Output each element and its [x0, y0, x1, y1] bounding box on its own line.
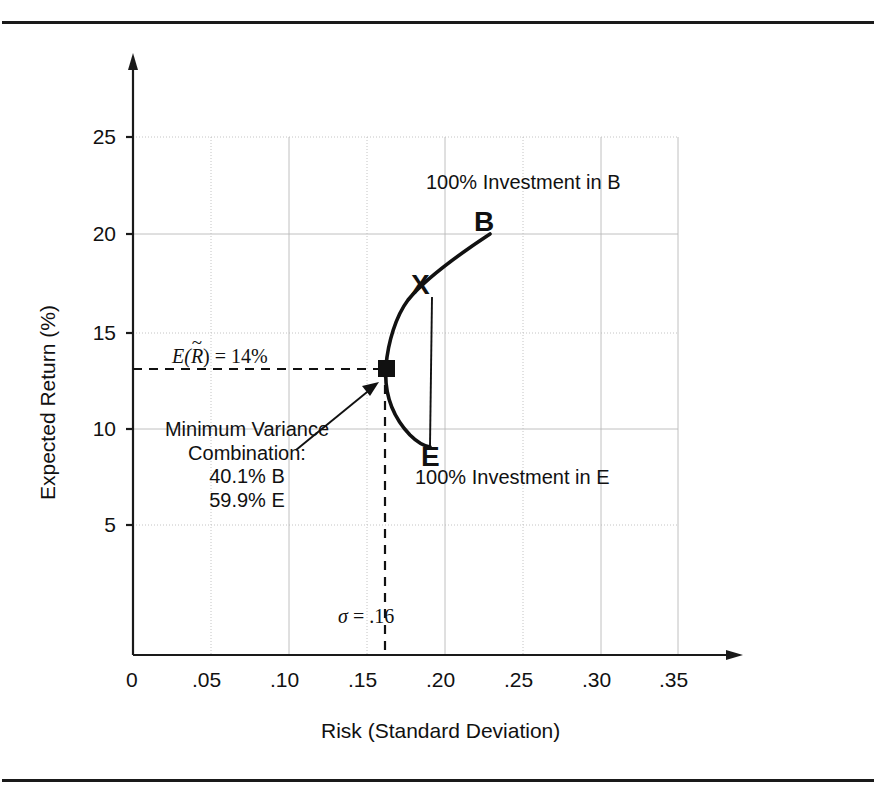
sigma-label: σ = .16: [338, 605, 394, 629]
min-var-line-2: Combination:: [127, 442, 367, 466]
tilde-accent: ~: [192, 332, 202, 354]
sigma-symbol: σ: [338, 605, 348, 627]
annotation-invest-b: 100% Investment in B: [426, 171, 621, 195]
minimum-variance-marker: [378, 360, 395, 377]
sigma-value: = .16: [348, 605, 394, 627]
y-axis-title: Expected Return (%): [36, 305, 61, 500]
expected-return-var-wrap: ~R: [191, 345, 203, 369]
x-axis-title: Risk (Standard Deviation): [321, 719, 560, 744]
figure-root: Expected Return (%) 25 20 15 10 5 0 .05 …: [0, 0, 882, 799]
y-tick-label-25: 25: [78, 125, 116, 150]
expected-return-suffix: ) = 14%: [203, 345, 268, 367]
x-tick-label-010: .10: [270, 668, 299, 693]
x-tick-label-035: .35: [659, 668, 688, 693]
label-point-e: E: [421, 440, 440, 473]
expected-return-label: E(~R) = 14%: [172, 345, 268, 369]
expected-return-prefix: E(: [172, 345, 191, 367]
y-tick-label-15: 15: [78, 321, 116, 346]
y-tick-label-10: 10: [78, 417, 116, 442]
vertical-gridlines: [211, 137, 678, 655]
x-axis-arrowhead: [726, 650, 743, 660]
x-tick-label-030: .30: [582, 668, 611, 693]
x-tick-label-025: .25: [504, 668, 533, 693]
min-var-line-4: 59.9% E: [127, 489, 367, 513]
x-tick-label-0: 0: [126, 668, 138, 693]
y-tick-label-20: 20: [78, 222, 116, 247]
minimum-variance-callout: Minimum Variance Combination: 40.1% B 59…: [127, 418, 367, 512]
y-tick-label-5: 5: [78, 513, 116, 538]
x-tick-label-015: .15: [348, 668, 377, 693]
label-point-x: X: [411, 268, 430, 301]
min-var-line-1: Minimum Variance: [127, 418, 367, 442]
annotation-invest-e: 100% Investment in E: [415, 466, 610, 490]
x-tick-label-020: .20: [426, 668, 455, 693]
x-tick-label-005: .05: [192, 668, 221, 693]
min-var-line-3: 40.1% B: [127, 465, 367, 489]
y-axis-arrowhead: [128, 53, 138, 70]
chord-x-to-e: [430, 297, 432, 446]
label-point-b: B: [474, 205, 494, 238]
opportunity-set-curve: [386, 234, 490, 447]
